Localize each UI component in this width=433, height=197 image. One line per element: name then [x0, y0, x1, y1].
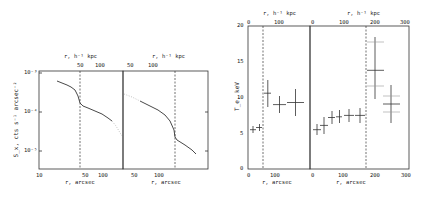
sb-b-xlabel: r, arcsec [151, 179, 181, 185]
sb-a-top-label: r, h⁻¹ kpc [64, 53, 97, 59]
sb-ylabel: S_x, cts s⁻¹ arcsec⁻² [12, 65, 19, 175]
t-ytick-20: 20 [237, 22, 244, 28]
t-b-top-tick-300: 300 [400, 19, 410, 25]
sb-ytick-1e-3: 10⁻³ [24, 69, 37, 75]
sb-b-xtick-50: 50 [131, 172, 138, 178]
sb-a-top-tick-50: 50 [77, 62, 84, 68]
t-a-top-tick-0: 0 [247, 19, 250, 25]
t-ytick-15: 15 [237, 58, 244, 64]
t-b-xtick-200: 200 [370, 172, 380, 178]
sb-ytick-1e-4: 10⁻⁴ [24, 108, 37, 114]
t-b-xlabel: r, arcsec [336, 179, 366, 185]
sb-b-top-tick-100: 100 [148, 62, 158, 68]
sb-a-xlabel: r, arcsec [65, 179, 95, 185]
t-b-top-tick-200: 200 [370, 19, 380, 25]
t-b-top-tick-100: 100 [339, 19, 349, 25]
t-a-top-label: r, h⁻¹ kpc [263, 10, 296, 16]
t-panel-a [248, 26, 310, 169]
t-a-xlabel: r, arcsec [262, 179, 292, 185]
t-panel-b [310, 26, 409, 169]
sb-a-top-tick-100: 100 [95, 62, 105, 68]
sb-a-xtick-10: 10 [36, 172, 43, 178]
sb-ytick-1e-5: 10⁻⁵ [24, 147, 37, 153]
t-a-xtick-0: 0 [247, 172, 250, 178]
sb-panel-b [123, 71, 208, 169]
sb-b-top-tick-50: 50 [127, 62, 134, 68]
figure-canvas [0, 0, 433, 197]
t-a-xtick-100: 100 [270, 172, 280, 178]
t-ytick-5: 5 [240, 130, 243, 136]
t-b-xtick-0: 0 [311, 172, 314, 178]
t-b-top-tick-0: 0 [311, 19, 314, 25]
t-b-xtick-300: 300 [401, 172, 411, 178]
t-a-top-tick-100: 100 [274, 19, 284, 25]
t-ytick-10: 10 [237, 94, 244, 100]
t-ytick-0: 0 [240, 165, 243, 171]
sb-yaxis [39, 73, 208, 151]
t-b-top-label: r, h⁻¹ kpc [347, 10, 380, 16]
sb-b-top-label: r, h⁻¹ kpc [152, 53, 185, 59]
sb-panel-a [39, 71, 123, 169]
sb-a-xtick-50: 50 [82, 172, 89, 178]
sb-b-xtick-100: 100 [154, 172, 164, 178]
sb-a-xtick-100: 100 [98, 172, 108, 178]
t-b-xtick-100: 100 [338, 172, 348, 178]
